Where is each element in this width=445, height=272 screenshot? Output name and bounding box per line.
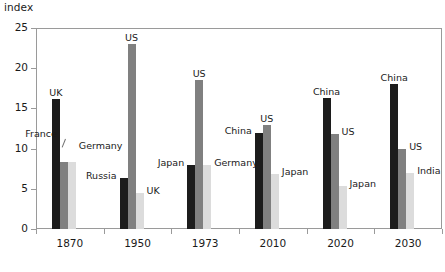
data-label-2030-us: US bbox=[409, 141, 422, 152]
data-label-2010-us: US bbox=[260, 113, 273, 124]
bar-1950-uk bbox=[136, 193, 144, 229]
data-label-1950-russia: Russia bbox=[86, 170, 117, 181]
data-label-1973-japan: Japan bbox=[158, 157, 185, 168]
y-tick-label: 20 bbox=[15, 61, 28, 73]
bar-2030-india bbox=[406, 173, 414, 229]
y-tick-label: 15 bbox=[15, 101, 28, 113]
x-tick-mark bbox=[104, 229, 105, 234]
x-tick-mark bbox=[307, 229, 308, 234]
y-axis-title: index bbox=[4, 1, 33, 13]
bar-2020-japan bbox=[339, 186, 347, 229]
bar-1950-russia bbox=[120, 178, 128, 229]
bar-2020-china bbox=[323, 98, 331, 229]
bar-1950-us bbox=[128, 44, 136, 229]
data-label-1973-germany: Germany bbox=[214, 157, 258, 168]
bar-chart: index 0510152025 18701950197320102020203… bbox=[0, 0, 445, 272]
bar-1870-germany bbox=[68, 162, 76, 229]
bar-2030-us bbox=[398, 149, 406, 229]
bar-2020-us bbox=[331, 134, 339, 229]
x-tick-label-2010: 2010 bbox=[259, 237, 286, 249]
bar-1870-uk bbox=[52, 99, 60, 229]
data-label-2020-us: US bbox=[342, 126, 355, 137]
x-tick-mark bbox=[239, 229, 240, 234]
bar-2010-us bbox=[263, 125, 271, 229]
data-label-1950-us: US bbox=[125, 32, 138, 43]
y-tick-mark bbox=[31, 149, 36, 150]
y-tick-label: 25 bbox=[15, 21, 28, 33]
x-tick-label-1950: 1950 bbox=[124, 237, 151, 249]
x-tick-label-1870: 1870 bbox=[56, 237, 83, 249]
bar-1973-us bbox=[195, 80, 203, 229]
y-tick-label: 5 bbox=[21, 182, 28, 194]
x-tick-mark bbox=[442, 229, 443, 234]
data-label-1950-uk: UK bbox=[147, 185, 160, 196]
data-label-2020-china: China bbox=[313, 86, 340, 97]
data-label-2010-china: China bbox=[225, 125, 252, 136]
y-tick-mark bbox=[31, 68, 36, 69]
y-tick-mark bbox=[31, 28, 36, 29]
data-label-1870-france: France bbox=[25, 128, 57, 139]
x-tick-mark bbox=[374, 229, 375, 234]
data-label-1870-uk: UK bbox=[49, 87, 62, 98]
data-label-2030-china: China bbox=[381, 72, 408, 83]
y-tick-label: 10 bbox=[15, 142, 28, 154]
bar-2010-china bbox=[255, 133, 263, 229]
bar-1973-japan bbox=[187, 165, 195, 229]
x-tick-label-1973: 1973 bbox=[192, 237, 219, 249]
bar-2030-china bbox=[390, 84, 398, 229]
data-label-1973-us: US bbox=[193, 68, 206, 79]
x-tick-label-2030: 2030 bbox=[395, 237, 422, 249]
y-tick-mark bbox=[31, 189, 36, 190]
bar-2010-japan bbox=[271, 174, 279, 229]
x-tick-mark bbox=[171, 229, 172, 234]
data-label-1870-germany: Germany bbox=[79, 140, 123, 151]
x-tick-label-2020: 2020 bbox=[327, 237, 354, 249]
bar-1973-germany bbox=[203, 165, 211, 229]
data-label-2030-india: India bbox=[417, 165, 440, 176]
y-tick-label: 0 bbox=[21, 222, 28, 234]
y-tick-mark bbox=[31, 108, 36, 109]
bar-1870-france bbox=[60, 162, 68, 229]
x-tick-mark bbox=[36, 229, 37, 234]
data-label-2020-japan: Japan bbox=[350, 178, 377, 189]
data-label-2010-japan: Japan bbox=[282, 166, 309, 177]
